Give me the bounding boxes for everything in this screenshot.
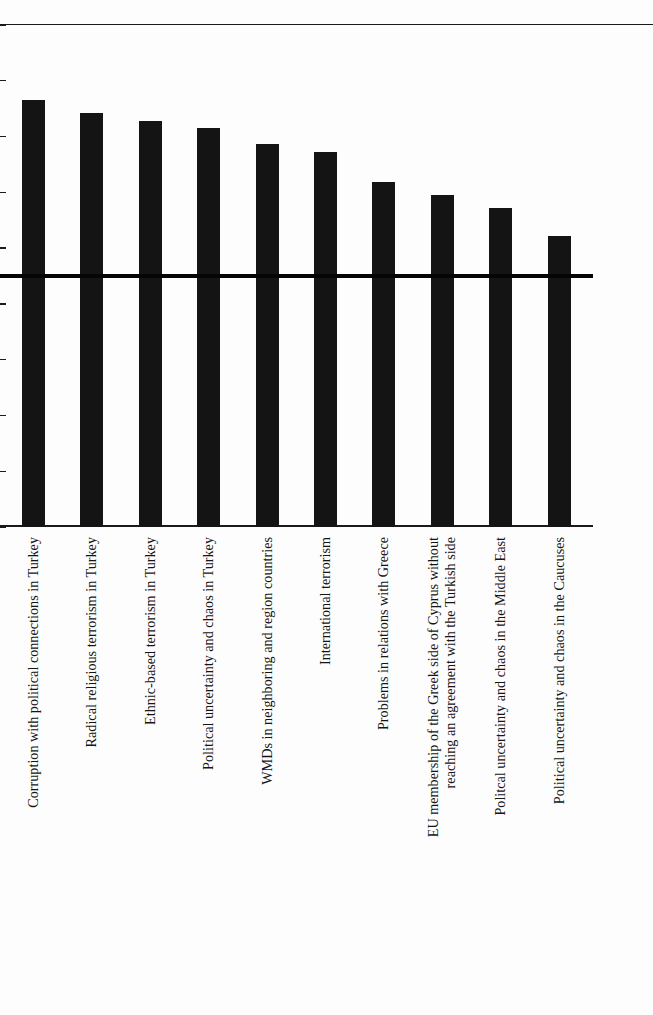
- bar: [22, 100, 45, 527]
- bar: [314, 152, 337, 527]
- rotated-bar-chart: 12345678910 Corruption with political co…: [0, 0, 653, 1015]
- bar: [372, 182, 395, 527]
- bar: [489, 208, 512, 527]
- bar: [80, 113, 103, 527]
- category-label: Politcal uncertainty and chaos in the Mi…: [492, 537, 509, 1007]
- plot-top-border: [0, 24, 653, 25]
- axis-tick: [0, 247, 6, 248]
- reference-line: [0, 274, 593, 277]
- bar: [139, 121, 162, 527]
- axis-tick: [0, 359, 6, 360]
- axis-tick: [0, 415, 6, 416]
- axis-tick: [0, 471, 6, 472]
- category-label: Political uncertainty and chaos in Turke…: [200, 537, 217, 1007]
- axis-tick: [0, 136, 6, 137]
- category-label: Radical religious terrorism in Turkey: [83, 537, 100, 1007]
- bar: [548, 236, 571, 527]
- category-label: International terrorism: [317, 537, 334, 1007]
- axis-tick: [0, 24, 6, 25]
- chart-page: 12345678910 Corruption with political co…: [0, 0, 653, 1015]
- bar: [197, 128, 220, 527]
- category-label: Ethnic-based terrorism in Turkey: [142, 537, 159, 1007]
- category-label: WMDs in neighboring and region countries: [259, 537, 276, 1007]
- category-label: Political uncertainty and chaos in the C…: [551, 537, 568, 1007]
- category-label: Corruption with political connections in…: [25, 537, 42, 1007]
- category-label: Problems in relations with Greece: [375, 537, 392, 1007]
- axis-tick: [0, 526, 6, 527]
- category-label: EU membership of the Greek side of Cypru…: [425, 537, 459, 1007]
- axis-tick: [0, 303, 6, 304]
- axis-tick: [0, 192, 6, 193]
- axis-tick: [0, 80, 6, 81]
- bar: [256, 144, 279, 527]
- bar: [431, 195, 454, 527]
